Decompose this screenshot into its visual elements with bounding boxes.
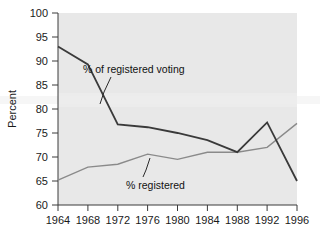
y-tick-label-100: 100 [30,7,48,19]
x-tick-label-1972: 1972 [106,214,130,226]
voting-annotation-label: % of registered voting [83,63,185,75]
y-tick-label-70: 70 [36,151,48,163]
x-tick-label-1996: 1996 [285,214,309,226]
y-tick-label-65: 65 [36,175,48,187]
chart-figure: 100 95 90 85 80 75 70 65 60 Percent 1964… [0,0,320,238]
y-tick-label-80: 80 [36,103,48,115]
line-chart: 100 95 90 85 80 75 70 65 60 Percent 1964… [0,0,320,238]
y-tick-label-75: 75 [36,127,48,139]
plot-area-background [58,13,297,205]
x-tick-label-1984: 1984 [195,214,219,226]
y-tick-label-95: 95 [36,31,48,43]
y-tick-label-85: 85 [36,79,48,91]
x-tick-label-1980: 1980 [165,214,189,226]
x-tick-label-1964: 1964 [46,214,70,226]
x-tick-label-1992: 1992 [255,214,279,226]
y-axis-title: Percent [6,90,18,128]
y-tick-label-90: 90 [36,55,48,67]
y-tick-label-60: 60 [36,199,48,211]
scan-band-artifact-wide [0,96,320,104]
registered-annotation-label: % registered [126,179,185,191]
x-tick-label-1968: 1968 [76,214,100,226]
x-tick-label-1976: 1976 [135,214,159,226]
x-tick-label-1988: 1988 [225,214,249,226]
